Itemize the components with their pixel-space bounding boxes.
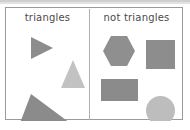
top-edge-band-highlight <box>0 2 190 4</box>
square-shape <box>146 40 175 69</box>
bottom-gutter <box>0 121 190 130</box>
rectangle-shape <box>101 79 138 101</box>
upward-triangle-shape <box>61 60 85 88</box>
panel-not-triangles: not triangles <box>90 8 183 119</box>
diagram-canvas: triangles not triangles <box>0 0 190 130</box>
panel-triangles: triangles <box>6 8 89 119</box>
right-pointing-triangle-shape <box>31 37 53 59</box>
hexagon-shape <box>103 36 135 66</box>
panel-not-triangles-label: not triangles <box>90 12 183 23</box>
scalene-right-triangle-shape <box>20 94 70 123</box>
panel-triangles-label: triangles <box>6 12 89 23</box>
sorting-chart-box: triangles not triangles <box>5 7 183 120</box>
top-edge-band <box>0 0 190 4</box>
